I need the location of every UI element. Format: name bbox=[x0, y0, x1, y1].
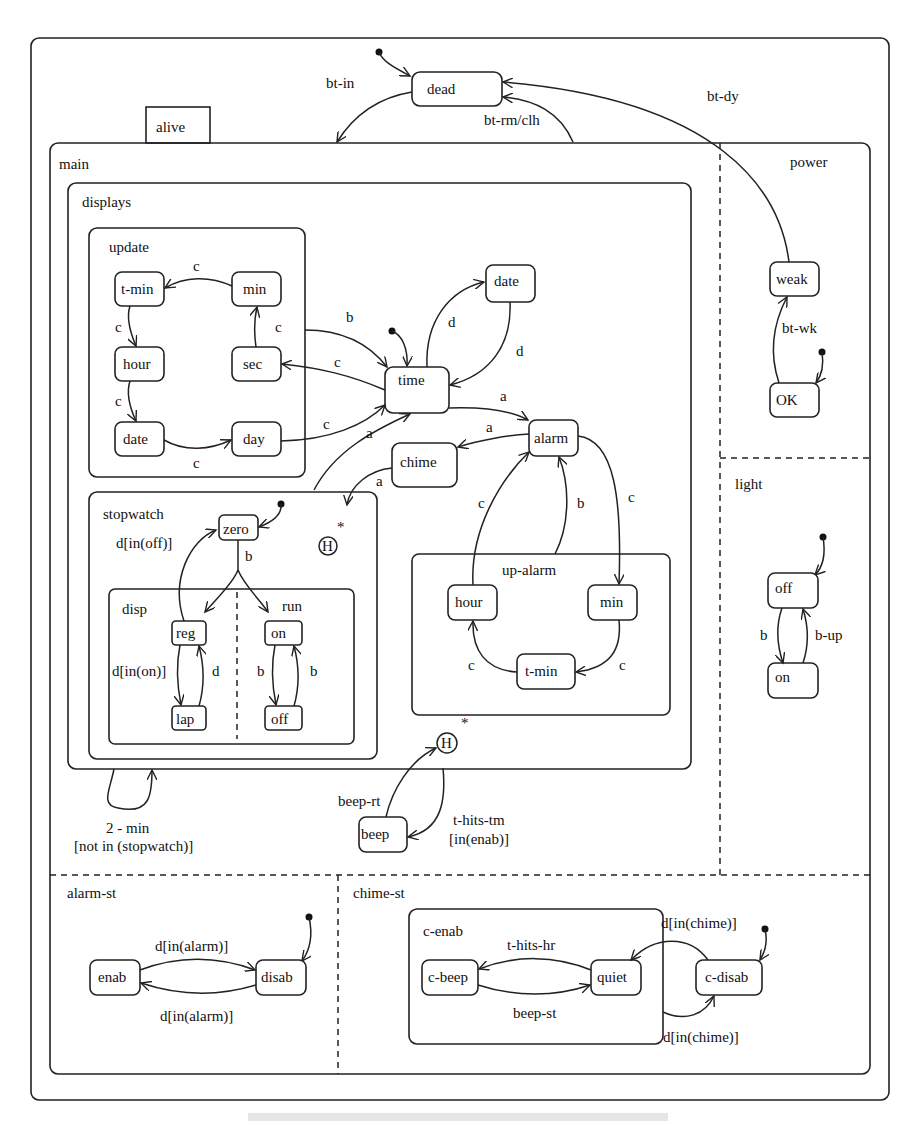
edge-cdisab-quiet bbox=[631, 941, 708, 960]
label-stopwatch-time: a bbox=[366, 425, 373, 441]
region-run-label: run bbox=[282, 598, 302, 614]
region-stopwatch-label: stopwatch bbox=[103, 506, 164, 522]
edge-alarm-chime bbox=[458, 434, 529, 447]
edge-disab-enab bbox=[141, 983, 256, 993]
edge-update-time bbox=[305, 330, 387, 367]
initial-edge-time bbox=[392, 331, 407, 366]
label-chime-history: a bbox=[376, 473, 383, 489]
label-zero-b: b bbox=[245, 548, 253, 564]
state-disab-label: disab bbox=[261, 969, 293, 985]
state-reg-label: reg bbox=[176, 625, 196, 641]
region-displays-label: displays bbox=[82, 194, 131, 210]
state-update-day-label: day bbox=[243, 431, 265, 447]
label-reg-lap: d[in(on)] bbox=[112, 663, 166, 680]
label-enab-disab: d[in(alarm)] bbox=[155, 938, 228, 955]
state-update-hour-label: hour bbox=[123, 356, 151, 372]
state-dead[interactable] bbox=[412, 72, 502, 106]
state-light-on-label: on bbox=[775, 669, 791, 685]
edge-zero-reg bbox=[205, 570, 238, 612]
alive-tab-label: alive bbox=[156, 119, 185, 135]
history-displays-star: * bbox=[337, 519, 345, 535]
label-alarm-chime: a bbox=[486, 419, 493, 435]
edge-update-sec-min bbox=[255, 307, 257, 347]
label-date-time: d bbox=[516, 343, 524, 359]
edge-reg-lap bbox=[177, 645, 181, 705]
edge-off-on bbox=[294, 646, 298, 706]
state-light-off-label: off bbox=[775, 580, 792, 596]
label-ok-weak: bt-wk bbox=[782, 320, 817, 336]
edge-displays-loop bbox=[108, 769, 152, 809]
region-update-label: update bbox=[109, 239, 149, 255]
edge-zero-on bbox=[238, 570, 268, 612]
label-on-off: b bbox=[257, 663, 265, 679]
label-loop-line2: [not in (stopwatch)] bbox=[74, 838, 193, 855]
initial-edge-light bbox=[815, 537, 824, 575]
label-upalarm-min-tmin: c bbox=[619, 657, 626, 673]
label-bt-dy: bt-dy bbox=[707, 88, 739, 104]
edge-bt-in bbox=[337, 92, 412, 142]
label-upalarm-alarm-b: b bbox=[577, 495, 585, 511]
region-alarm-st-label: alarm-st bbox=[67, 885, 117, 901]
state-zero-label: zero bbox=[223, 521, 249, 537]
state-up-alarm-min-label: min bbox=[600, 594, 624, 610]
label-t-hits-tm-guard: [in(enab)] bbox=[449, 831, 509, 848]
label-reg-zero: d[in(off)] bbox=[116, 535, 172, 552]
state-dead-label: dead bbox=[427, 81, 456, 97]
label-time-sec: c bbox=[334, 354, 341, 370]
edge-beep-history bbox=[386, 748, 436, 817]
region-up-alarm bbox=[412, 554, 670, 715]
state-c-beep-label: c-beep bbox=[428, 969, 468, 985]
statechart-diagram: dead bt-in bt-rm/clh bt-dy alive main di… bbox=[0, 0, 918, 1126]
label-hour-alarm: c bbox=[478, 495, 485, 511]
edge-cbeep-quiet bbox=[478, 985, 590, 994]
edge-upalarm-alarm-b bbox=[555, 457, 567, 554]
edge-update-date-day bbox=[164, 440, 231, 448]
label-time-alarm: a bbox=[500, 388, 507, 404]
label-update-min-tmin: c bbox=[193, 258, 200, 274]
initial-edge-zero bbox=[259, 504, 281, 527]
label-update-date-day: c bbox=[193, 455, 200, 471]
label-lap-reg: d bbox=[212, 663, 220, 679]
edge-cenab-cdisab bbox=[663, 996, 714, 1017]
label-alarm-min: c bbox=[628, 489, 635, 505]
label-disab-enab: d[in(alarm)] bbox=[160, 1008, 233, 1025]
label-beep-rt: beep-rt bbox=[338, 793, 381, 809]
state-lap-label: lap bbox=[176, 711, 194, 727]
label-loop-line1: 2 - min bbox=[106, 820, 150, 836]
initial-edge-ok bbox=[816, 352, 823, 383]
label-light-off-on: b bbox=[760, 627, 768, 643]
state-up-alarm-t-min-label: t-min bbox=[525, 663, 558, 679]
edge-on-off bbox=[272, 645, 276, 705]
label-off-on: b bbox=[310, 663, 318, 679]
label-update-sec-min: c bbox=[275, 319, 282, 335]
history-main-symbol: H bbox=[441, 735, 452, 751]
history-displays-symbol: H bbox=[322, 538, 333, 554]
label-bt-rm: bt-rm/clh bbox=[484, 112, 540, 128]
edge-upalarm-tmin-hour bbox=[473, 621, 517, 672]
edge-light-off-on bbox=[778, 608, 783, 663]
edge-update-hour-date bbox=[128, 381, 136, 421]
state-up-alarm-hour-label: hour bbox=[455, 594, 483, 610]
state-update-t-min-label: t-min bbox=[121, 281, 154, 297]
state-enab-label: enab bbox=[98, 969, 126, 985]
label-update-tmin-hour: c bbox=[115, 319, 122, 335]
label-cbeep-quiet: beep-st bbox=[513, 1005, 557, 1021]
label-light-on-off: b-up bbox=[815, 627, 843, 643]
state-quiet-label: quiet bbox=[597, 969, 628, 985]
edge-enab-disab bbox=[140, 959, 255, 970]
label-upalarm-tmin-hour: c bbox=[468, 657, 475, 673]
label-t-hits-tm: t-hits-tm bbox=[453, 812, 505, 828]
region-power-label: power bbox=[790, 154, 828, 170]
state-alarm-label: alarm bbox=[534, 430, 568, 446]
label-cenab-cdisab: d[in(chime)] bbox=[663, 1029, 739, 1046]
edge-ok-weak bbox=[774, 297, 787, 383]
label-quiet-cbeep: t-hits-hr bbox=[507, 937, 555, 953]
history-main-star: * bbox=[461, 715, 469, 731]
region-up-alarm-label: up-alarm bbox=[502, 562, 556, 578]
edge-quiet-cbeep bbox=[479, 959, 591, 970]
edge-update-tmin-hour bbox=[128, 306, 136, 346]
state-run-off-label: off bbox=[271, 711, 288, 727]
state-c-disab-label: c-disab bbox=[705, 969, 748, 985]
state-ok-label: OK bbox=[776, 392, 798, 408]
edge-update-min-tmin bbox=[165, 279, 232, 288]
